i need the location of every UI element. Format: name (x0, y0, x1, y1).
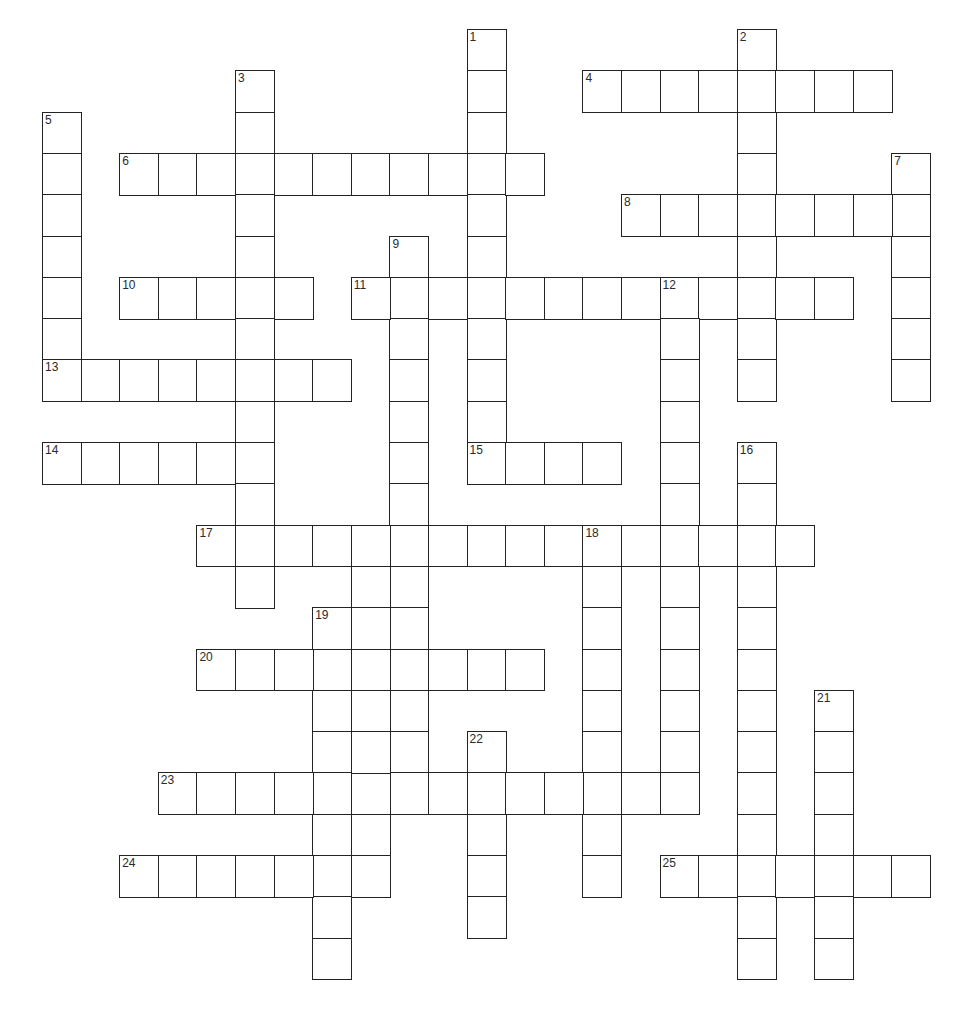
grid-cell[interactable] (235, 194, 275, 237)
cell-letter-input[interactable] (236, 71, 274, 112)
cell-letter-input[interactable] (236, 443, 274, 484)
grid-cell[interactable] (814, 194, 854, 237)
grid-cell[interactable] (737, 112, 777, 155)
grid-cell[interactable] (544, 525, 584, 568)
cell-letter-input[interactable] (583, 443, 621, 484)
cell-letter-input[interactable] (622, 773, 660, 814)
cell-letter-input[interactable] (236, 195, 274, 236)
grid-cell[interactable] (853, 194, 893, 237)
grid-cell[interactable] (274, 649, 314, 692)
cell-letter-input[interactable] (313, 526, 351, 567)
cell-letter-input[interactable] (738, 319, 776, 360)
cell-letter-input[interactable] (352, 608, 390, 649)
cell-letter-input[interactable] (43, 443, 81, 484)
grid-cell[interactable]: 21 (814, 690, 854, 733)
grid-cell[interactable] (698, 277, 738, 320)
grid-cell[interactable] (544, 277, 584, 320)
grid-cell[interactable] (235, 525, 275, 568)
grid-cell[interactable] (621, 70, 661, 113)
grid-cell[interactable] (351, 690, 391, 733)
cell-letter-input[interactable] (43, 154, 81, 195)
cell-letter-input[interactable] (738, 732, 776, 773)
cell-letter-input[interactable] (313, 939, 351, 980)
grid-cell[interactable] (544, 772, 584, 815)
grid-cell[interactable] (42, 318, 82, 361)
grid-cell[interactable]: 13 (42, 359, 82, 402)
cell-letter-input[interactable] (468, 773, 506, 814)
cell-letter-input[interactable] (661, 360, 699, 401)
grid-cell[interactable] (814, 277, 854, 320)
cell-letter-input[interactable] (390, 237, 428, 278)
cell-letter-input[interactable] (468, 443, 506, 484)
grid-cell[interactable] (505, 442, 545, 485)
cell-letter-input[interactable] (738, 443, 776, 484)
cell-letter-input[interactable] (429, 278, 467, 319)
cell-letter-input[interactable] (197, 278, 235, 319)
grid-cell[interactable] (582, 277, 622, 320)
cell-letter-input[interactable] (236, 484, 274, 525)
cell-letter-input[interactable] (390, 732, 428, 773)
cell-letter-input[interactable] (390, 484, 428, 525)
grid-cell[interactable] (196, 153, 236, 196)
grid-cell[interactable] (544, 442, 584, 485)
grid-cell[interactable] (351, 772, 391, 815)
grid-cell[interactable]: 16 (737, 442, 777, 485)
grid-cell[interactable] (389, 483, 429, 526)
grid-cell[interactable] (274, 855, 314, 898)
grid-cell[interactable] (81, 359, 121, 402)
grid-cell[interactable]: 24 (119, 855, 159, 898)
cell-letter-input[interactable] (661, 856, 699, 897)
cell-letter-input[interactable] (738, 237, 776, 278)
cell-letter-input[interactable] (583, 691, 621, 732)
cell-letter-input[interactable] (854, 856, 892, 897)
cell-letter-input[interactable] (159, 360, 197, 401)
cell-letter-input[interactable] (352, 815, 390, 856)
grid-cell[interactable]: 14 (42, 442, 82, 485)
cell-letter-input[interactable] (661, 773, 699, 814)
grid-cell[interactable] (621, 525, 661, 568)
cell-letter-input[interactable] (468, 650, 506, 691)
cell-letter-input[interactable] (738, 608, 776, 649)
grid-cell[interactable] (660, 649, 700, 692)
cell-letter-input[interactable] (236, 360, 274, 401)
grid-cell[interactable] (775, 194, 815, 237)
cell-letter-input[interactable] (583, 650, 621, 691)
grid-cell[interactable] (660, 690, 700, 733)
cell-letter-input[interactable] (545, 526, 583, 567)
grid-cell[interactable]: 6 (119, 153, 159, 196)
cell-letter-input[interactable] (468, 856, 506, 897)
grid-cell[interactable] (235, 359, 275, 402)
cell-letter-input[interactable] (82, 443, 120, 484)
cell-letter-input[interactable] (738, 154, 776, 195)
grid-cell[interactable] (737, 566, 777, 609)
cell-letter-input[interactable] (468, 897, 506, 938)
grid-cell[interactable] (505, 649, 545, 692)
cell-letter-input[interactable] (236, 113, 274, 154)
cell-letter-input[interactable] (854, 71, 892, 112)
cell-letter-input[interactable] (120, 278, 158, 319)
cell-letter-input[interactable] (583, 732, 621, 773)
grid-cell[interactable] (119, 442, 159, 485)
grid-cell[interactable] (660, 731, 700, 774)
grid-cell[interactable] (505, 153, 545, 196)
grid-cell[interactable] (274, 277, 314, 320)
cell-letter-input[interactable] (468, 278, 506, 319)
grid-cell[interactable] (737, 483, 777, 526)
grid-cell[interactable]: 18 (582, 525, 622, 568)
grid-cell[interactable] (582, 566, 622, 609)
grid-cell[interactable]: 1 (467, 29, 507, 72)
grid-cell[interactable] (428, 525, 468, 568)
grid-cell[interactable] (891, 236, 931, 279)
cell-letter-input[interactable] (352, 856, 390, 897)
cell-letter-input[interactable] (506, 443, 544, 484)
grid-cell[interactable]: 5 (42, 112, 82, 155)
grid-cell[interactable] (158, 442, 198, 485)
grid-cell[interactable] (312, 814, 352, 857)
grid-cell[interactable] (196, 855, 236, 898)
grid-cell[interactable] (389, 690, 429, 733)
cell-letter-input[interactable] (390, 773, 428, 814)
grid-cell[interactable] (467, 70, 507, 113)
cell-letter-input[interactable] (313, 691, 351, 732)
grid-cell[interactable] (467, 525, 507, 568)
grid-cell[interactable]: 9 (389, 236, 429, 279)
